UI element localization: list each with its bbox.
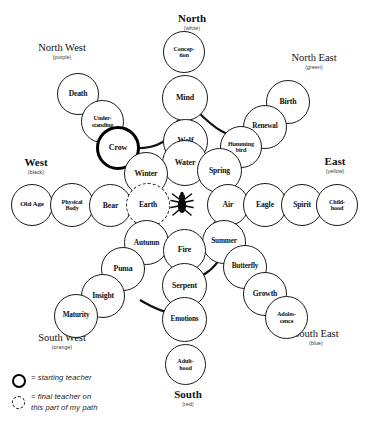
legend-label-starting-teacher: = starting teacher xyxy=(31,372,92,383)
node-conception[interactable]: Concep- tion xyxy=(163,31,205,73)
legend-label-final-teacher: = final teacher on this part of my path xyxy=(31,391,98,413)
starting-teacher-marker-icon xyxy=(12,374,26,388)
node-emotions[interactable]: Emotions xyxy=(162,297,207,342)
direction-label-east: East (yellow) xyxy=(308,155,362,174)
final-teacher-marker-icon xyxy=(12,396,25,409)
spider-icon xyxy=(171,192,193,215)
direction-label-north-east: North East (green) xyxy=(266,52,362,70)
node-mind[interactable]: Mind xyxy=(162,75,208,121)
direction-label-north-west: North West (purple) xyxy=(10,42,114,60)
direction-label-north: North (white) xyxy=(152,12,232,31)
legend-row-starting-teacher: = starting teacher xyxy=(12,372,212,392)
legend: = starting teacher = final teacher on th… xyxy=(12,372,212,412)
node-adolescence[interactable]: Adoles- cence xyxy=(265,296,308,339)
direction-label-west: West (black) xyxy=(8,156,64,175)
node-maturity[interactable]: Maturity xyxy=(54,294,98,338)
node-physical-body[interactable]: Physical Body xyxy=(50,183,94,227)
direction-label-south-west: South West (orange) xyxy=(10,332,114,350)
legend-row-final-teacher: = final teacher on this part of my path xyxy=(12,392,212,412)
node-childhood[interactable]: Child- hood xyxy=(316,184,358,226)
node-old-age[interactable]: Old Age xyxy=(11,184,53,226)
